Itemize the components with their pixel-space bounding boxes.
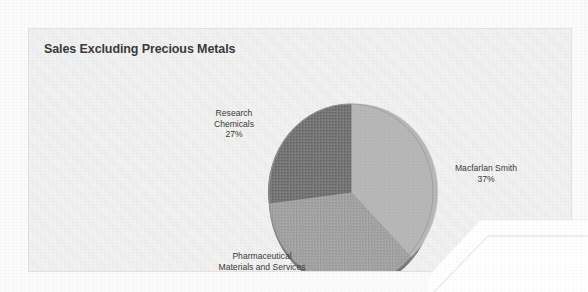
pie-label-macfarlan-smith-percent: 37% (421, 174, 551, 185)
pie-label-pharmaceutical-line1: Pharmaceutical (232, 251, 291, 261)
pie-label-pharmaceutical-line2: Materials and Services (219, 262, 306, 272)
pie-label-macfarlan-smith: Macfarlan Smith 37% (421, 163, 551, 184)
chart-panel: Sales Excluding Precious Metals (28, 28, 572, 272)
pie-label-research-chemicals-line2: Chemicals (214, 119, 254, 129)
pie-label-research-chemicals-percent: 27% (179, 129, 289, 140)
pie-label-research-chemicals: Research Chemicals 27% (179, 108, 289, 140)
pie-label-macfarlan-smith-line1: Macfarlan Smith (455, 163, 517, 173)
chart-title: Sales Excluding Precious Metals (44, 42, 235, 56)
pie-label-pharmaceutical-materials-and-services: Pharmaceutical Materials and Services 36… (177, 251, 347, 272)
pie-label-research-chemicals-line1: Research (216, 108, 253, 118)
